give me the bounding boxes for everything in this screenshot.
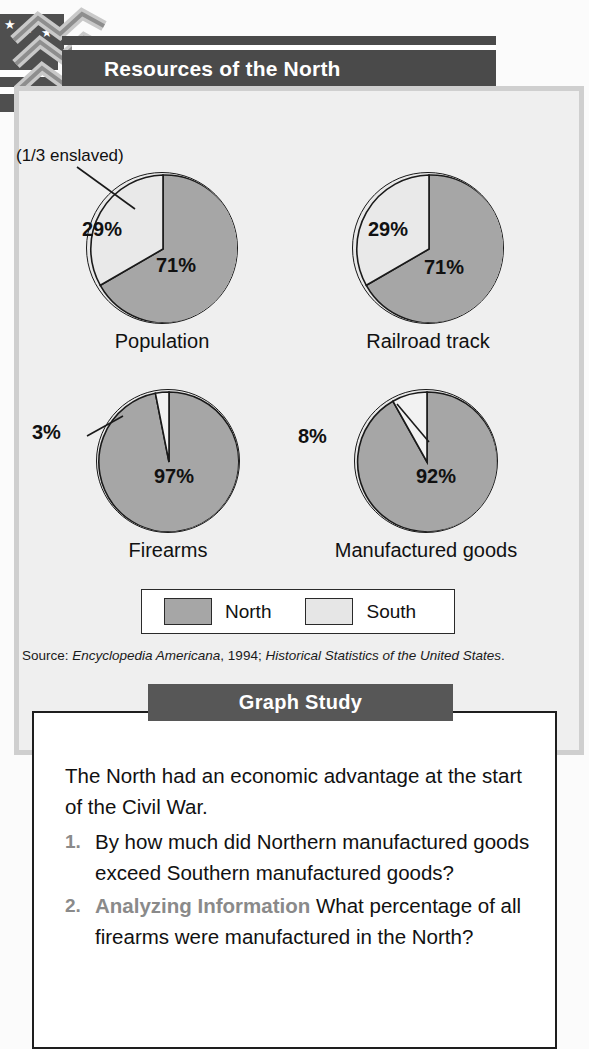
- annotation-leader-line: [75, 165, 145, 215]
- question-number: 2.: [65, 890, 95, 952]
- source-work-2: Historical Statistics of the United Stat…: [265, 648, 501, 663]
- slice-value-south: 29%: [82, 218, 122, 241]
- question-lead: Analyzing Information: [95, 894, 310, 917]
- graph-study-header: Graph Study: [148, 684, 453, 721]
- slice-value-north: 92%: [416, 465, 456, 488]
- pie-graphic: [96, 389, 240, 533]
- manufactured-leader-line: [395, 402, 437, 446]
- graph-study-question: 1. By how much did Northern manufactured…: [65, 826, 545, 888]
- pie-label-railroad-track: Railroad track: [340, 330, 516, 353]
- pie-chart-firearms: 3% 97% Firearms: [96, 389, 240, 533]
- slice-value-north: 97%: [154, 465, 194, 488]
- annotation-one-third-enslaved: (1/3 enslaved): [16, 146, 124, 166]
- graph-study-intro: The North had an economic advantage at t…: [65, 760, 535, 822]
- slice-value-south: 3%: [32, 421, 61, 444]
- graph-study-question-list: 1. By how much did Northern manufactured…: [65, 826, 545, 954]
- question-number: 1.: [65, 826, 95, 888]
- legend-swatch-south: [305, 598, 353, 625]
- title-top-accent-bar: [62, 36, 496, 45]
- pie-chart-railroad-track: 29% 71% Railroad track: [352, 172, 504, 324]
- source-work-1: Encyclopedia Americana: [72, 648, 220, 663]
- source-line: Source: Encyclopedia Americana, 1994; Hi…: [22, 648, 505, 663]
- pie-graphic: [352, 172, 504, 324]
- slice-value-north: 71%: [156, 254, 196, 277]
- page-title-line1: Resources of the North: [104, 54, 494, 84]
- pie-label-manufactured-goods: Manufactured goods: [298, 539, 554, 562]
- legend-swatch-north: [164, 598, 212, 625]
- question-body: By how much did Northern manufactured go…: [95, 830, 529, 884]
- legend-label-south: South: [366, 601, 416, 623]
- legend-item-south: South: [305, 598, 416, 625]
- question-text: By how much did Northern manufactured go…: [95, 826, 545, 888]
- pie-label-firearms: Firearms: [86, 539, 250, 562]
- legend-label-north: North: [225, 601, 271, 623]
- slice-value-north: 71%: [424, 256, 464, 279]
- graph-study-question: 2. Analyzing Information What percentage…: [65, 890, 545, 952]
- legend-item-north: North: [164, 598, 271, 625]
- source-mid: , 1994;: [220, 648, 265, 663]
- slice-value-south: 29%: [368, 218, 408, 241]
- slice-value-south: 8%: [298, 425, 327, 448]
- legend: North South: [141, 589, 455, 634]
- source-suffix: .: [501, 648, 505, 663]
- source-prefix: Source:: [22, 648, 72, 663]
- question-text: Analyzing Information What percentage of…: [95, 890, 545, 952]
- firearms-leader-line: [85, 414, 133, 444]
- pie-label-population: Population: [82, 330, 242, 353]
